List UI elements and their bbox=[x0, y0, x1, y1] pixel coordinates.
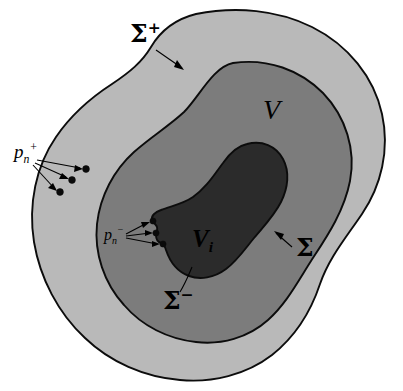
p-n-plus-point-2 bbox=[69, 177, 76, 184]
p-n-minus-point-1 bbox=[150, 218, 156, 224]
p-n-plus-base: p bbox=[12, 141, 24, 162]
sigma-plus-base: Σ bbox=[130, 19, 148, 48]
p-n-minus-subscript: n bbox=[112, 235, 117, 246]
sigma-base: Σ bbox=[296, 233, 314, 262]
volume-v-base: V bbox=[263, 94, 283, 125]
p-n-minus-point-3 bbox=[160, 241, 166, 247]
diagram-canvas: Σ+ Σ Σ− V Vi bbox=[0, 0, 403, 391]
volume-v-label: V bbox=[263, 94, 283, 125]
sigma-label: Σ bbox=[296, 233, 314, 262]
p-n-minus-superscript: − bbox=[117, 224, 124, 235]
region-diagram: Σ+ Σ Σ− V Vi bbox=[0, 0, 403, 391]
p-n-plus-subscript: n bbox=[24, 153, 30, 166]
p-n-plus-point-1 bbox=[83, 166, 90, 173]
sigma-plus-superscript: + bbox=[148, 18, 161, 37]
p-n-plus-point-3 bbox=[57, 189, 64, 196]
sigma-minus-base: Σ bbox=[163, 286, 181, 315]
volume-vi-subscript: i bbox=[209, 238, 214, 255]
p-n-plus-superscript: + bbox=[29, 141, 37, 154]
p-n-minus-base: p bbox=[103, 226, 112, 244]
p-n-minus-point-2 bbox=[153, 230, 159, 236]
